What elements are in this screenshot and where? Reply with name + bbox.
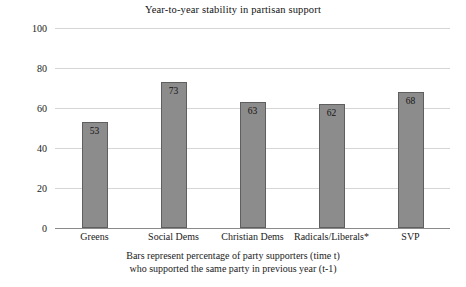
y-tick-label: 20 xyxy=(7,183,47,194)
bar-value-label: 73 xyxy=(162,87,186,97)
bar: 63 xyxy=(240,102,266,228)
y-tick-label: 80 xyxy=(7,63,47,74)
caption-line-2: who supported the same party in previous… xyxy=(0,263,466,276)
y-axis: 020406080100 xyxy=(0,28,47,228)
bar: 73 xyxy=(161,82,187,228)
y-tick-label: 0 xyxy=(7,223,47,234)
bar-value-label: 68 xyxy=(399,97,423,107)
axis-baseline xyxy=(55,228,450,229)
bar: 68 xyxy=(398,92,424,228)
x-tick-label: Greens xyxy=(80,231,108,242)
x-tick-label: SVP xyxy=(401,231,419,242)
x-tick-label: Christian Dems xyxy=(221,231,284,242)
y-tick-label: 60 xyxy=(7,103,47,114)
caption-line-1: Bars represent percentage of party suppo… xyxy=(0,250,466,263)
x-tick-label: Radicals/Liberals* xyxy=(294,231,369,242)
y-tick-label: 100 xyxy=(7,23,47,34)
x-axis: GreensSocial DemsChristian DemsRadicals/… xyxy=(55,231,450,247)
gridline xyxy=(55,68,450,69)
bar-value-label: 62 xyxy=(320,109,344,119)
bar-value-label: 63 xyxy=(241,107,265,117)
chart-figure: Year-to-year stability in partisan suppo… xyxy=(0,0,466,287)
plot-area: 5373636268 xyxy=(55,28,450,228)
bar: 53 xyxy=(82,122,108,228)
bar: 62 xyxy=(319,104,345,228)
y-tick-label: 40 xyxy=(7,143,47,154)
bar-value-label: 53 xyxy=(83,127,107,137)
chart-title: Year-to-year stability in partisan suppo… xyxy=(0,4,466,15)
gridline xyxy=(55,28,450,29)
chart-caption: Bars represent percentage of party suppo… xyxy=(0,250,466,275)
x-tick-label: Social Dems xyxy=(148,231,199,242)
